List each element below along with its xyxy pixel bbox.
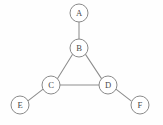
node-label-b: B	[76, 43, 82, 53]
graph-canvas: ABCDEF	[0, 0, 163, 125]
graph-edge-b-d	[86, 54, 102, 78]
graph-node-e: E	[11, 96, 29, 114]
node-label-a: A	[76, 8, 83, 18]
graph-diagram: ABCDEF	[0, 0, 163, 125]
node-label-d: D	[105, 80, 111, 90]
graph-node-d: D	[99, 76, 117, 94]
graph-edge-c-e	[28, 89, 43, 101]
node-label-e: E	[17, 100, 22, 110]
node-label-c: C	[48, 80, 54, 90]
graph-node-f: F	[131, 96, 149, 114]
graph-edge-d-f	[116, 89, 131, 101]
graph-node-b: B	[70, 39, 88, 57]
node-label-f: F	[138, 100, 143, 110]
graph-node-a: A	[70, 4, 88, 22]
graph-edge-b-c	[57, 54, 72, 78]
graph-node-c: C	[42, 76, 60, 94]
